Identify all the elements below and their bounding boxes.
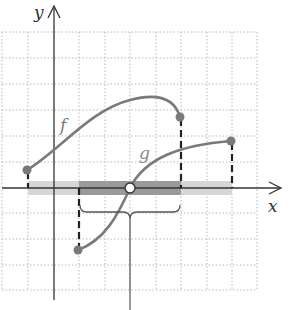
excluded-point-open-circle [125,183,135,193]
g-end-point [227,137,236,146]
curve-g [78,141,231,250]
curve-f-label: f [58,115,69,135]
curve-g-label: g [139,143,150,163]
y-axis-label: y [33,2,44,22]
function-domain-diagram: y x f g [0,0,291,310]
x-axis-label: x [268,196,278,216]
f-end-point [176,113,185,122]
f-start-point [23,166,32,175]
g-start-point [74,246,83,255]
